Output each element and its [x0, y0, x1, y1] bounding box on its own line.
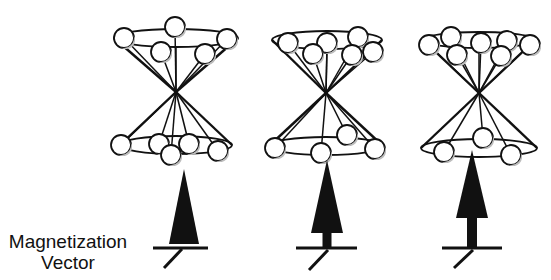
spin-sphere-icon [111, 135, 132, 156]
vector-arrowhead [456, 150, 488, 218]
spin-sphere-icon [447, 45, 468, 66]
spin-sphere-icon [303, 44, 324, 65]
spin-sphere-icon [165, 17, 186, 38]
spin-sphere-icon [179, 134, 200, 155]
vector-arrowhead [311, 160, 343, 233]
cone-axis [326, 49, 327, 93]
spin-sphere-icon [278, 33, 299, 54]
vector-stem [467, 218, 477, 248]
spin-sphere-icon [114, 28, 135, 49]
cone-3 [419, 27, 541, 268]
spin-sphere-icon [471, 33, 492, 54]
spin-sphere-icon [363, 42, 384, 63]
magnetization-vector-arrow [442, 150, 502, 268]
spin-sphere-icon [151, 42, 172, 63]
spin-sphere-icon [161, 145, 182, 166]
axis-diagonal [164, 249, 182, 268]
cone-2 [265, 27, 386, 270]
magnetization-vector-arrow [153, 169, 208, 268]
spin-sphere-icon [501, 145, 522, 166]
magnetization-vector-arrow [296, 160, 357, 270]
spin-sphere-icon [342, 45, 363, 66]
spin-sphere-icon [365, 139, 386, 160]
axis-diagonal [454, 250, 473, 268]
vector-label: Vector [0, 252, 136, 273]
spin-sphere-icon [491, 46, 512, 67]
spin-sphere-icon [419, 35, 440, 56]
axis-diagonal [309, 250, 328, 270]
spin-sphere-icon [195, 44, 216, 65]
spin-sphere-icon [265, 138, 286, 159]
spin-sphere-icon [473, 128, 494, 149]
spin-sphere-icon [520, 35, 541, 56]
spin-sphere-icon [337, 125, 358, 146]
vector-stem [323, 233, 332, 248]
vector-arrowhead [169, 169, 199, 244]
spin-sphere-icon [311, 143, 332, 164]
spin-sphere-icon [208, 141, 229, 162]
spin-sphere-icon [434, 142, 455, 163]
magnetization-label: Magnetization [0, 231, 136, 252]
spin-sphere-icon [217, 29, 238, 50]
